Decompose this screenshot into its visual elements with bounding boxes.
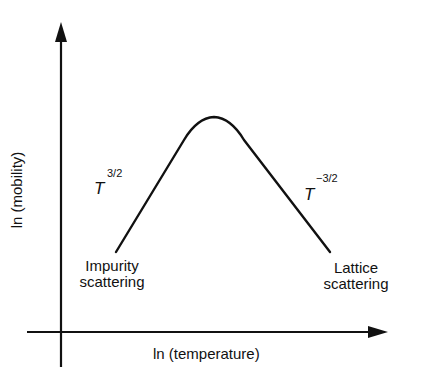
impurity-scattering-annotation: Impurity scattering [71, 258, 153, 290]
y-axis-arrowhead [55, 22, 67, 42]
right-slope-exponent: −3/2 [316, 172, 338, 184]
mobility-curve [116, 117, 330, 252]
right-slope-base: T [304, 185, 314, 205]
left-slope-exponent: 3/2 [107, 167, 122, 179]
impurity-line2: scattering [71, 274, 153, 290]
lattice-scattering-annotation: Lattice scattering [315, 260, 397, 292]
x-axis-label: ln (temperature) [153, 345, 260, 362]
mobility-temperature-diagram [0, 0, 421, 389]
impurity-line1: Impurity [71, 258, 153, 274]
left-slope-base: T [94, 179, 104, 199]
lattice-line1: Lattice [315, 260, 397, 276]
y-axis-label: ln (mobility) [8, 152, 25, 229]
lattice-line2: scattering [315, 276, 397, 292]
x-axis-arrowhead [368, 326, 388, 338]
